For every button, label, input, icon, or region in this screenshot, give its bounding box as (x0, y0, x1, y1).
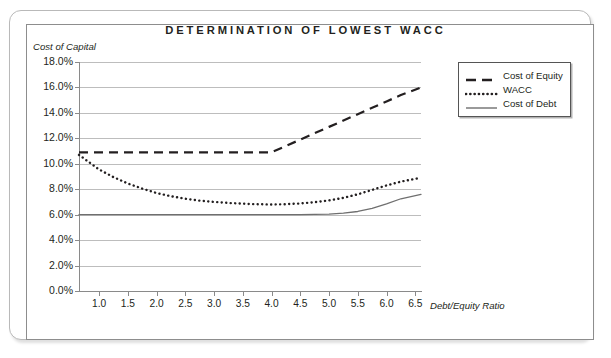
x-tick-label: 1.0 (84, 298, 114, 309)
legend-item: Cost of Debt (465, 97, 564, 110)
series-line-cost-of-debt (79, 194, 421, 214)
legend-label: Cost of Debt (503, 99, 556, 109)
x-tick-mark (157, 292, 158, 296)
x-axis-title: Debt/Equity Ratio (430, 300, 505, 311)
y-tick-label: 16.0% (27, 80, 73, 92)
legend-item: Cost of Equity (465, 69, 564, 82)
x-tick-mark (243, 292, 244, 296)
dashed-line-icon (465, 71, 498, 81)
solid-line-icon (465, 99, 498, 109)
y-tick-label: 6.0% (27, 208, 73, 220)
dotted-line-icon (465, 85, 498, 95)
x-tick-label: 4.5 (285, 298, 315, 309)
x-tick-mark (99, 292, 100, 296)
x-tick-label: 2.5 (170, 298, 200, 309)
y-tick-label: 12.0% (27, 131, 73, 143)
x-tick-label: 1.5 (113, 298, 143, 309)
y-tick-label: 0.0% (27, 284, 73, 296)
x-tick-mark (329, 292, 330, 296)
x-tick-mark (272, 292, 273, 296)
x-tick-label: 3.0 (199, 298, 229, 309)
legend-label: WACC (503, 85, 532, 95)
x-tick-mark (358, 292, 359, 296)
y-tick-label: 18.0% (27, 55, 73, 67)
chart-title: DETERMINATION OF LOWEST WACC (0, 24, 611, 36)
legend-label: Cost of Equity (503, 71, 563, 81)
x-tick-mark (214, 292, 215, 296)
y-tick-label: 2.0% (27, 259, 73, 271)
series-line-wacc (79, 155, 421, 205)
y-tick-label: 4.0% (27, 233, 73, 245)
chart-legend: Cost of EquityWACCCost of Debt (458, 62, 571, 117)
series-line-cost-of-equity (79, 87, 421, 152)
x-tick-mark (387, 292, 388, 296)
y-tick-label: 8.0% (27, 182, 73, 194)
legend-item: WACC (465, 83, 564, 96)
x-tick-mark (300, 292, 301, 296)
x-tick-label: 5.0 (314, 298, 344, 309)
y-axis-title: Cost of Capital (33, 41, 96, 52)
x-tick-label: 4.0 (257, 298, 287, 309)
x-tick-label: 6.5 (400, 298, 430, 309)
x-tick-mark (185, 292, 186, 296)
x-tick-label: 2.0 (142, 298, 172, 309)
x-tick-mark (128, 292, 129, 296)
y-tick-label: 10.0% (27, 157, 73, 169)
x-tick-label: 3.5 (228, 298, 258, 309)
x-tick-mark (415, 292, 416, 296)
x-tick-label: 5.5 (343, 298, 373, 309)
x-tick-label: 6.0 (372, 298, 402, 309)
chart-series-layer (79, 62, 421, 292)
y-tick-label: 14.0% (27, 106, 73, 118)
